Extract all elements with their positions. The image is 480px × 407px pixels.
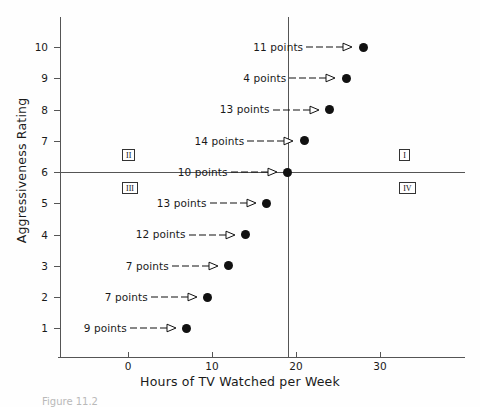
data-point [224, 261, 233, 270]
point-annotation-label: 7 points [105, 292, 151, 303]
data-point [359, 43, 368, 52]
x-axis-tick [128, 352, 129, 358]
point-annotation-label: 10 points [178, 167, 231, 178]
point-annotation-label: 7 points [126, 261, 172, 272]
x-axis-tick-label: 0 [113, 361, 143, 372]
figure-caption: Figure 11.2 [42, 396, 472, 407]
data-point [300, 136, 309, 145]
annotation-arrow-icon [151, 291, 197, 303]
data-point [283, 168, 292, 177]
point-annotation: 7 points [0, 260, 218, 272]
point-annotation: 7 points [0, 291, 197, 303]
quadrant-badge-ii: II [122, 149, 135, 161]
point-annotation-label: 13 points [220, 104, 273, 115]
point-annotation-label: 9 points [84, 323, 130, 334]
x-axis-tick-label: 20 [281, 361, 311, 372]
data-point [182, 324, 191, 333]
point-annotation-label: 4 points [243, 73, 289, 84]
x-axis-tick [212, 352, 213, 358]
point-annotation: 4 points [0, 72, 335, 84]
y-axis-line [60, 17, 61, 358]
point-annotation: 11 points [0, 41, 352, 53]
point-annotation: 13 points [0, 197, 256, 209]
annotation-arrow-icon [210, 197, 256, 209]
x-axis-tick [296, 352, 297, 358]
x-axis-tick-label: 10 [197, 361, 227, 372]
annotation-arrow-icon [130, 322, 176, 334]
data-point [325, 105, 334, 114]
data-point [241, 230, 250, 239]
annotation-arrow-icon [273, 104, 319, 116]
data-point [262, 199, 271, 208]
point-annotation-label: 12 points [136, 229, 189, 240]
annotation-arrow-icon [231, 166, 277, 178]
data-point [203, 293, 212, 302]
point-annotation: 13 points [0, 104, 319, 116]
point-annotation: 14 points [0, 135, 293, 147]
point-annotation-label: 11 points [253, 42, 306, 53]
quadrant-badge-iv: IV [399, 182, 415, 194]
annotation-arrow-icon [172, 260, 218, 272]
quadrant-badge-iii: III [122, 182, 138, 194]
quadrant-badge-i: I [399, 149, 410, 161]
annotation-arrow-icon [189, 229, 235, 241]
data-point [342, 74, 351, 83]
scatter-plot-figure: 12345678910 0102030 Hours of TV Watched … [0, 0, 480, 407]
annotation-arrow-icon [289, 72, 335, 84]
x-axis-tick [380, 352, 381, 358]
annotation-arrow-icon [306, 41, 352, 53]
x-axis-line [58, 357, 465, 358]
point-annotation-label: 13 points [157, 198, 210, 209]
point-annotation: 9 points [0, 322, 176, 334]
point-annotation: 12 points [0, 229, 235, 241]
x-axis-tick-label: 30 [365, 361, 395, 372]
point-annotation: 10 points [0, 166, 277, 178]
x-axis-title: Hours of TV Watched per Week [0, 374, 480, 389]
vertical-mean-reference-line [288, 17, 289, 357]
annotation-arrow-icon [247, 135, 293, 147]
point-annotation-label: 14 points [195, 136, 248, 147]
